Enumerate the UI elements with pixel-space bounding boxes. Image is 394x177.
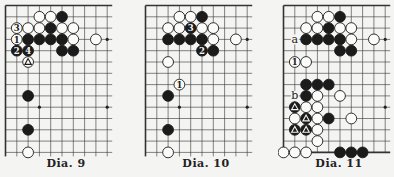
white-stone: 3 bbox=[11, 23, 22, 34]
white-stone bbox=[23, 57, 34, 68]
black-stone bbox=[323, 23, 334, 34]
star-point bbox=[384, 38, 387, 41]
white-stone bbox=[163, 23, 174, 34]
white-stone bbox=[312, 113, 323, 124]
black-stone bbox=[45, 23, 56, 34]
go-board-11: ab1 bbox=[278, 0, 394, 160]
white-stone bbox=[335, 91, 346, 102]
black-stone bbox=[312, 79, 323, 90]
diagram-11: ab1 bbox=[278, 0, 394, 160]
white-stone bbox=[312, 102, 323, 113]
white-stone bbox=[91, 34, 102, 45]
white-stone bbox=[174, 11, 185, 22]
black-stone bbox=[174, 34, 185, 45]
black-stone bbox=[335, 45, 346, 56]
white-stone: 1 bbox=[174, 79, 185, 90]
black-stone: 2 bbox=[197, 45, 208, 56]
move-number: 3 bbox=[188, 23, 194, 33]
black-stone bbox=[312, 34, 323, 45]
star-point bbox=[106, 106, 109, 109]
star-point bbox=[106, 38, 109, 41]
white-stone bbox=[312, 124, 323, 135]
white-stone bbox=[23, 23, 34, 34]
star-point bbox=[38, 106, 41, 109]
white-stone bbox=[174, 23, 185, 34]
black-stone bbox=[346, 45, 357, 56]
white-stone bbox=[312, 136, 323, 147]
black-stone bbox=[57, 34, 68, 45]
black-stone bbox=[335, 11, 346, 22]
black-stone bbox=[163, 91, 174, 102]
white-stone bbox=[289, 113, 300, 124]
white-stone bbox=[312, 91, 323, 102]
star-point bbox=[246, 38, 249, 41]
white-stone bbox=[34, 23, 45, 34]
black-stone bbox=[163, 34, 174, 45]
black-stone bbox=[57, 45, 68, 56]
star-point bbox=[246, 106, 249, 109]
white-stone bbox=[163, 57, 174, 68]
white-stone bbox=[301, 57, 312, 68]
black-stone bbox=[301, 91, 312, 102]
point-label-b: b bbox=[291, 89, 298, 102]
black-stone bbox=[323, 34, 334, 45]
move-number: 4 bbox=[25, 46, 31, 56]
white-stone bbox=[34, 11, 45, 22]
diagram-9: 3124 bbox=[0, 0, 125, 160]
white-stone bbox=[346, 34, 357, 45]
black-stone bbox=[23, 91, 34, 102]
star-point bbox=[384, 106, 387, 109]
caption-dia-11: Dia. 11 bbox=[284, 157, 394, 170]
move-number: 3 bbox=[14, 23, 20, 33]
black-stone bbox=[185, 34, 196, 45]
black-stone bbox=[197, 11, 208, 22]
white-stone bbox=[301, 23, 312, 34]
black-stone bbox=[208, 45, 219, 56]
point-label-a: a bbox=[292, 33, 299, 46]
white-stone bbox=[312, 11, 323, 22]
black-stone bbox=[197, 34, 208, 45]
white-stone bbox=[335, 23, 346, 34]
white-stone bbox=[197, 23, 208, 34]
black-stone bbox=[301, 34, 312, 45]
white-stone bbox=[369, 34, 380, 45]
move-number: 1 bbox=[14, 35, 20, 45]
white-stone bbox=[185, 11, 196, 22]
move-number: 1 bbox=[176, 80, 182, 90]
go-board-10: 321 bbox=[140, 0, 265, 160]
white-stone bbox=[346, 113, 357, 124]
black-stone bbox=[289, 102, 300, 113]
black-stone: 2 bbox=[11, 45, 22, 56]
black-stone bbox=[301, 79, 312, 90]
black-stone bbox=[23, 34, 34, 45]
black-stone: 3 bbox=[185, 23, 196, 34]
white-stone bbox=[312, 23, 323, 34]
black-stone bbox=[335, 34, 346, 45]
white-stone bbox=[68, 34, 79, 45]
move-number: 1 bbox=[292, 57, 298, 67]
black-stone bbox=[68, 45, 79, 56]
black-stone bbox=[323, 113, 334, 124]
black-stone bbox=[163, 124, 174, 135]
go-board-9: 3124 bbox=[0, 0, 125, 160]
black-stone bbox=[301, 113, 312, 124]
black-stone bbox=[323, 79, 334, 90]
move-number: 2 bbox=[14, 46, 20, 56]
caption-dia-10: Dia. 10 bbox=[151, 157, 261, 170]
white-stone bbox=[301, 102, 312, 113]
white-stone bbox=[57, 23, 68, 34]
diagram-10: 321 bbox=[140, 0, 265, 160]
caption-dia-9: Dia. 9 bbox=[11, 157, 121, 170]
black-stone bbox=[301, 124, 312, 135]
white-stone bbox=[231, 34, 242, 45]
white-stone: 1 bbox=[11, 34, 22, 45]
white-stone bbox=[68, 23, 79, 34]
black-stone bbox=[57, 11, 68, 22]
white-stone bbox=[208, 23, 219, 34]
star-point bbox=[178, 106, 181, 109]
black-stone bbox=[45, 34, 56, 45]
white-stone bbox=[45, 11, 56, 22]
black-stone bbox=[34, 34, 45, 45]
white-stone: 1 bbox=[289, 57, 300, 68]
black-stone bbox=[289, 124, 300, 135]
